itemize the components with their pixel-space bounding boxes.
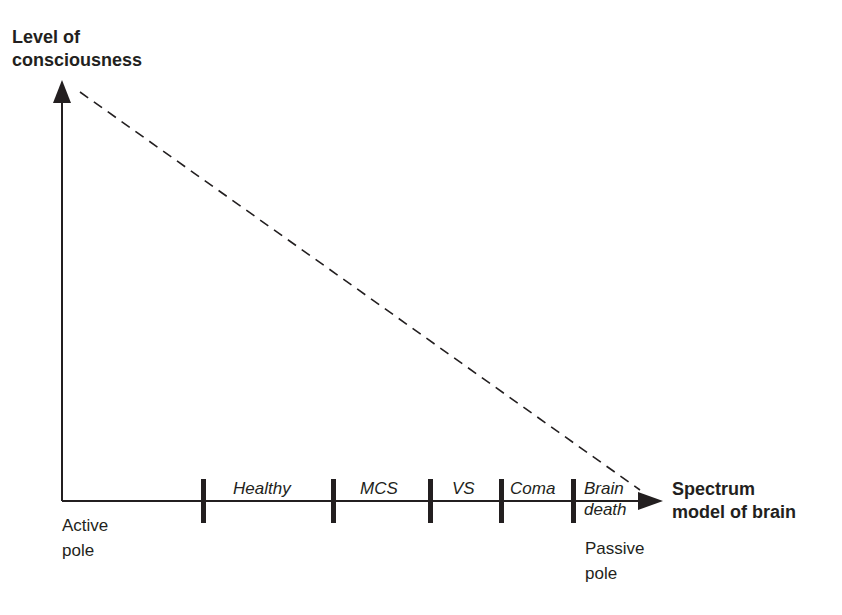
consciousness-decline-dashed-line [80,92,640,490]
y-axis-label-line2: consciousness [12,49,142,72]
y-axis-arrowhead-icon [53,80,71,103]
tick-vs-start [428,479,433,523]
tick-brain-death-start [571,479,576,523]
brain-death-line2: death [584,499,627,520]
tick-healthy-start [201,479,206,523]
y-axis-label: Level of consciousness [12,26,142,72]
x-axis-label: Spectrum model of brain [672,478,796,524]
x-axis-label-line1: Spectrum [672,478,796,501]
category-label-vs: VS [452,478,475,499]
passive-pole-line2: pole [585,561,645,586]
active-pole-label: Active pole [62,513,108,563]
tick-mcs-start [331,479,336,523]
active-pole-line2: pole [62,538,108,563]
category-label-brain-death: Brain death [584,478,627,520]
x-axis-label-line2: model of brain [672,501,796,524]
passive-pole-label: Passive pole [585,536,645,586]
passive-pole-line1: Passive [585,536,645,561]
brain-death-line1: Brain [584,478,627,499]
category-label-mcs: MCS [360,478,398,499]
x-axis-arrowhead-icon [638,492,663,510]
y-axis-label-line1: Level of [12,26,142,49]
category-label-coma: Coma [510,478,555,499]
category-label-healthy: Healthy [233,478,291,499]
tick-coma-start [499,479,504,523]
active-pole-line1: Active [62,513,108,538]
